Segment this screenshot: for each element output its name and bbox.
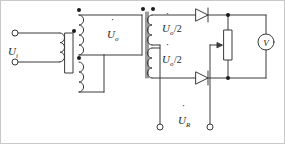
polarity-dot-middle-mid: [77, 56, 81, 60]
polarity-dot-secondary-a: [141, 7, 145, 11]
label-secondary-upper-suffix: /2: [174, 23, 182, 34]
input-terminal-top[interactable]: [12, 30, 18, 36]
circuit-diagram-canvas: U ̇ i U ̇ o U ̇ o /2 U ̇ o /2 U ̇ R: [0, 0, 285, 144]
schematic-svg: U ̇ i U ̇ o U ̇ o /2 U ̇ o /2 U ̇ R: [0, 0, 285, 144]
label-output-voltage-subscript: R: [185, 121, 191, 129]
polarity-dot-middle-top: [77, 8, 81, 12]
junction-dot-bottom-right: [226, 76, 230, 80]
polarity-dot-secondary-b: [151, 7, 155, 11]
output-terminal-left[interactable]: [157, 124, 163, 130]
label-secondary-lower-suffix: /2: [174, 54, 182, 65]
polarity-dot-primary: [72, 29, 76, 33]
label-winding-voltage-subscript: o: [115, 35, 119, 43]
output-terminal-right[interactable]: [207, 124, 213, 130]
potentiometer[interactable]: [224, 30, 232, 60]
junction-dot-top-right: [226, 13, 230, 17]
transformer-core: [65, 33, 73, 73]
label-input-voltage-subscript: i: [16, 52, 18, 60]
